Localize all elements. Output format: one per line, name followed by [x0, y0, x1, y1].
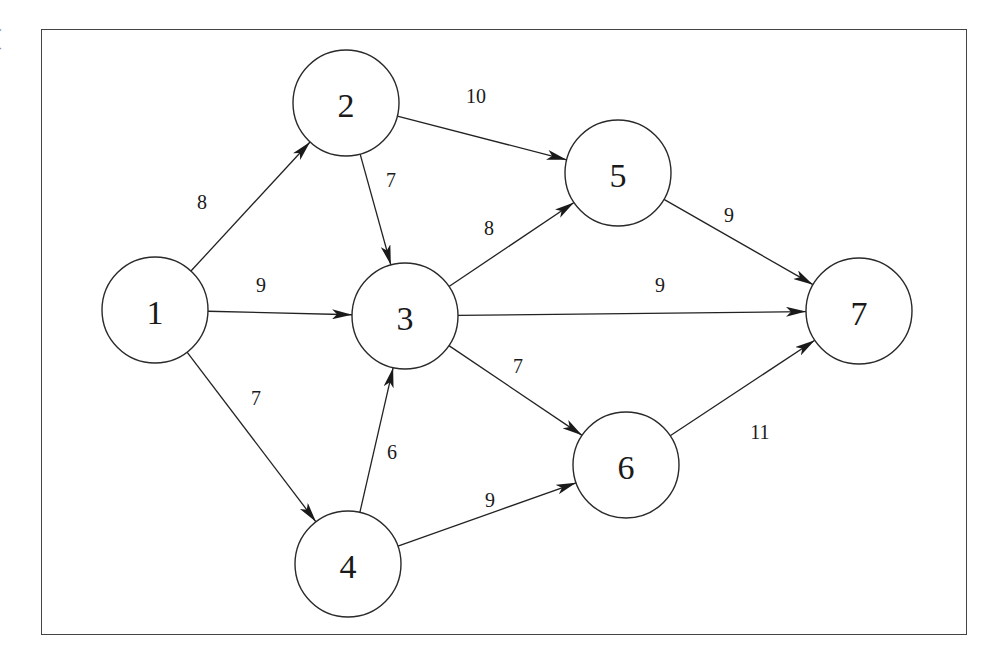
edges-group: 89771089769911: [187, 85, 815, 546]
graph-figure: ( 89771089769911 1234567: [0, 0, 998, 662]
edge-1-to-3: [208, 311, 352, 314]
edge-weight-3-7: 9: [655, 274, 665, 296]
node-4: 4: [295, 511, 401, 617]
edge-weight-2-5: 10: [466, 85, 486, 107]
nodes-group: 1234567: [102, 50, 912, 617]
edge-4-to-3: [360, 368, 393, 513]
node-label: 4: [340, 548, 357, 585]
edge-weight-6-7: 11: [750, 421, 769, 443]
node-label: 3: [397, 300, 414, 337]
edge-weight-1-2: 8: [197, 191, 207, 213]
edge-weight-3-5: 8: [484, 217, 494, 239]
node-7: 7: [806, 258, 912, 364]
node-2: 2: [293, 50, 399, 156]
edge-1-to-4: [187, 352, 316, 522]
node-6: 6: [573, 412, 679, 518]
edge-2-to-5: [397, 116, 566, 160]
node-label: 1: [147, 294, 164, 331]
edge-6-to-7: [670, 340, 815, 436]
node-label: 6: [618, 449, 635, 486]
edge-weight-1-3: 9: [256, 274, 266, 296]
edge-3-to-7: [458, 312, 806, 316]
edge-1-to-2: [191, 142, 310, 271]
edge-weight-2-3: 7: [386, 169, 396, 191]
edge-weight-4-6: 9: [485, 489, 495, 511]
node-1: 1: [102, 257, 208, 363]
edge-3-to-5: [449, 203, 574, 287]
edge-weight-3-6: 7: [513, 355, 523, 377]
node-5: 5: [565, 120, 671, 226]
edge-weight-1-4: 7: [251, 387, 261, 409]
edge-weight-4-3: 6: [387, 441, 397, 463]
node-3: 3: [352, 263, 458, 369]
node-label: 2: [338, 87, 355, 124]
graph-canvas: 89771089769911 1234567: [0, 0, 998, 662]
edge-weight-5-7: 9: [724, 204, 734, 226]
node-label: 5: [610, 157, 627, 194]
node-label: 7: [851, 295, 868, 332]
edge-5-to-7: [664, 199, 813, 284]
